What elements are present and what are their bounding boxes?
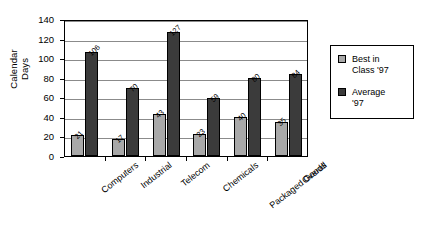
y-axis-tick-label: 60 bbox=[43, 93, 54, 102]
y-axis-tick-mark bbox=[60, 118, 64, 119]
y-axis-tick-label: 20 bbox=[43, 132, 54, 141]
bar-best-in-class bbox=[234, 117, 247, 156]
bar-value-label: 127 bbox=[168, 23, 183, 38]
x-axis-category-labels: ComputersIndustrialTelecomChemicalsPacka… bbox=[0, 158, 421, 228]
bar-average bbox=[85, 52, 98, 156]
bar-average bbox=[167, 32, 180, 156]
y-axis-tick-label: 80 bbox=[43, 74, 54, 83]
legend-swatch-average-icon bbox=[338, 88, 346, 96]
y-axis-tick-label: 120 bbox=[38, 35, 54, 44]
x-axis-category-label: Chemicals bbox=[221, 160, 260, 194]
y-axis-tick-label: 140 bbox=[38, 15, 54, 24]
y-axis-tick-mark bbox=[60, 157, 64, 158]
y-axis-tick-mark bbox=[60, 98, 64, 99]
y-axis-tick-mark bbox=[60, 59, 64, 60]
y-axis-tick-mark bbox=[60, 40, 64, 41]
plot-area: 21106177043127235940803584 bbox=[64, 20, 308, 157]
bar-average bbox=[248, 78, 261, 156]
y-axis-tick-mark bbox=[60, 137, 64, 138]
bar-best-in-class bbox=[153, 114, 166, 156]
y-axis-tick-mark bbox=[60, 20, 64, 21]
bar-series-container: 21106177043127235940803584 bbox=[65, 21, 307, 156]
bar-average bbox=[207, 98, 220, 156]
legend-item-best-in-class: Best in Class '97 bbox=[338, 54, 413, 76]
x-axis-category-label: Computers bbox=[100, 160, 141, 195]
y-axis-tick-label: 100 bbox=[38, 54, 54, 63]
bar-average bbox=[289, 74, 302, 156]
y-axis-tick-labels: 020406080100120140 bbox=[0, 20, 60, 157]
x-axis-category-label: Telecom bbox=[179, 160, 212, 189]
x-axis-category-label: Industrial bbox=[139, 160, 174, 190]
legend-item-average: Average '97 bbox=[338, 87, 413, 109]
legend-swatch-best-in-class-icon bbox=[338, 55, 346, 63]
bar-average bbox=[126, 88, 139, 157]
legend-label-best-in-class: Best in Class '97 bbox=[352, 54, 389, 76]
x-axis-category-label: Overall bbox=[300, 160, 329, 185]
legend-label-average: Average '97 bbox=[352, 87, 385, 109]
y-axis-tick-label: 40 bbox=[43, 113, 54, 122]
y-axis-tick-mark bbox=[60, 79, 64, 80]
chart-legend: Best in Class '97 Average '97 bbox=[330, 45, 414, 119]
bar-chart: Calendar Days 020406080100120140 2110617… bbox=[0, 0, 421, 230]
